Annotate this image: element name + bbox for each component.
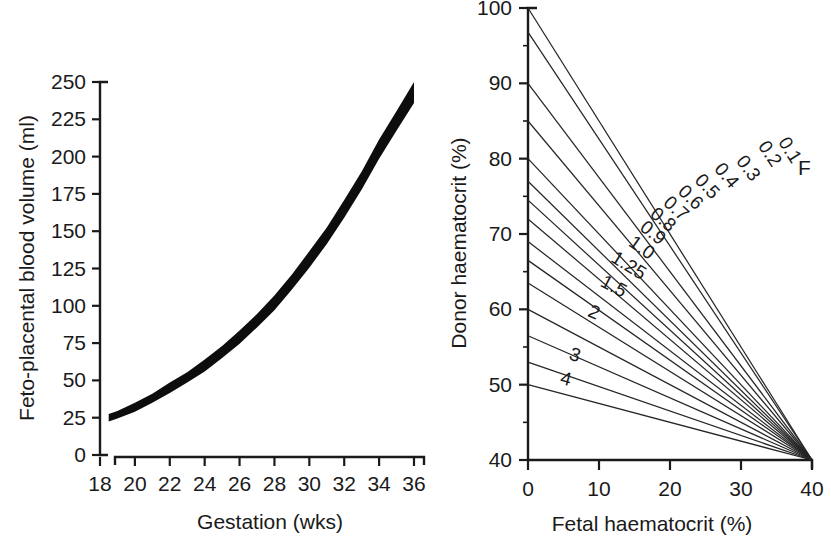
x-tick-label: 24 — [193, 472, 217, 495]
y-tick-label: 60 — [489, 297, 512, 320]
y-tick-label: 90 — [489, 71, 512, 94]
y-tick-label: 25 — [63, 406, 86, 429]
x-axis-ticks — [528, 460, 812, 470]
nomogram-lines — [528, 8, 812, 460]
x-axis-title: Fetal haematocrit (%) — [552, 512, 753, 535]
blood-volume-svg: 0255075100125150175200225250 18202224262… — [0, 0, 440, 538]
chart-panel-haematocrit-nomogram: 405060708090100 010203040 0.10.20.30.40.… — [440, 0, 831, 538]
x-axis-tick-labels: 18202224262830323436 — [88, 472, 425, 495]
blood-volume-curve — [109, 82, 414, 421]
y-tick-label: 225 — [51, 107, 86, 130]
x-tick-label: 30 — [729, 477, 752, 500]
two-panel-figure: 0255075100125150175200225250 18202224262… — [0, 0, 831, 538]
x-tick-label: 22 — [158, 472, 181, 495]
y-tick-label: 200 — [51, 145, 86, 168]
y-axis-ticks — [519, 8, 528, 460]
y-axis-title: Donor haematocrit (%) — [447, 137, 470, 348]
x-tick-label: 36 — [402, 472, 425, 495]
x-tick-label: 34 — [367, 472, 391, 495]
y-tick-label: 150 — [51, 219, 86, 242]
y-tick-label: 40 — [489, 448, 512, 471]
y-axis-tick-labels: 0255075100125150175200225250 — [51, 70, 86, 466]
x-axis-ticks — [100, 457, 414, 466]
x-tick-label: 28 — [263, 472, 286, 495]
y-tick-label: 100 — [51, 294, 86, 317]
x-tick-label: 18 — [88, 472, 111, 495]
y-tick-label: 125 — [51, 257, 86, 280]
y-tick-label: 80 — [489, 147, 512, 170]
nomogram-label-4: 4 — [558, 367, 574, 390]
y-tick-label: 50 — [63, 368, 86, 391]
y-axis-spine — [528, 8, 537, 460]
x-tick-label: 40 — [800, 477, 823, 500]
nomogram-line-0.8 — [528, 219, 812, 460]
chart-panel-feto-placental-blood-volume: 0255075100125150175200225250 18202224262… — [0, 0, 440, 538]
y-axis-tick-labels: 405060708090100 — [477, 0, 512, 471]
y-tick-label: 70 — [489, 222, 512, 245]
x-tick-label: 10 — [587, 477, 610, 500]
x-tick-label: 30 — [298, 472, 321, 495]
x-tick-label: 20 — [123, 472, 146, 495]
y-tick-label: 75 — [63, 331, 86, 354]
x-axis-spine — [115, 457, 424, 465]
x-tick-label: 0 — [522, 477, 534, 500]
nomogram-line-0.1 — [528, 8, 812, 460]
x-tick-label: 26 — [228, 472, 251, 495]
y-axis-spine — [100, 82, 108, 455]
y-tick-label: 250 — [51, 70, 86, 93]
nomogram-line-0.7 — [528, 200, 812, 460]
x-axis-title: Gestation (wks) — [197, 510, 343, 533]
y-tick-label: 175 — [51, 182, 86, 205]
y-axis-title: Feto-placental blood volume (ml) — [15, 115, 38, 421]
x-axis-tick-labels: 010203040 — [522, 477, 824, 500]
nomogram-label-3: 3 — [567, 343, 584, 366]
x-tick-label: 20 — [658, 477, 681, 500]
y-tick-label: 50 — [489, 373, 512, 396]
x-tick-label: 32 — [333, 472, 356, 495]
f-legend-label: F — [798, 156, 811, 179]
nomogram-svg: 405060708090100 010203040 0.10.20.30.40.… — [440, 0, 831, 538]
y-tick-label: 100 — [477, 0, 512, 19]
y-tick-label: 0 — [74, 443, 86, 466]
nomogram-line-1.5 — [528, 309, 812, 460]
